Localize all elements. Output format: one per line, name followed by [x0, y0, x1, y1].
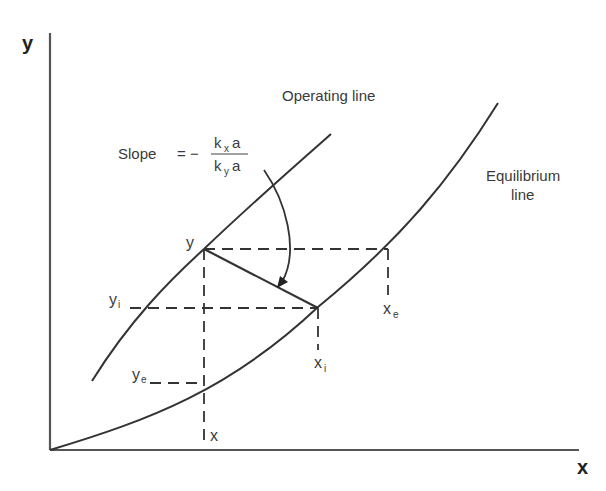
operating-line-label: Operating line [282, 87, 375, 104]
slope-denominator-a: a [232, 157, 241, 174]
slope-denominator-k: k [214, 157, 222, 174]
arrowhead-icon [277, 276, 288, 288]
equilibrium-line-label-2: line [511, 186, 534, 203]
slope-denominator-sub: y [224, 166, 229, 177]
operating-line [92, 134, 331, 381]
point-yi-label: y [109, 291, 117, 308]
slope-label: Slope [118, 145, 156, 162]
point-xi-label: x [314, 354, 322, 371]
mass-transfer-diagram: y x Operating line Equilibrium line Slop… [0, 0, 606, 491]
y-axis-label: y [22, 32, 34, 54]
slope-numerator-sub: x [224, 143, 229, 154]
equilibrium-line-label: Equilibrium [486, 167, 560, 184]
slope-arrow [264, 170, 290, 282]
point-xi-sub: i [324, 363, 326, 374]
point-ye-sub: e [141, 374, 147, 385]
point-xe-label: x [383, 300, 391, 317]
slope-equals: = − [177, 145, 199, 162]
x-axis-label: x [577, 456, 588, 478]
tie-line [204, 249, 318, 308]
slope-numerator-k: k [214, 134, 222, 151]
point-yi-sub: i [118, 299, 120, 310]
point-x-label: x [210, 427, 218, 444]
point-ye-label: y [132, 366, 140, 383]
point-xe-sub: e [393, 309, 399, 320]
point-y-label: y [186, 234, 194, 251]
slope-numerator-a: a [232, 134, 241, 151]
